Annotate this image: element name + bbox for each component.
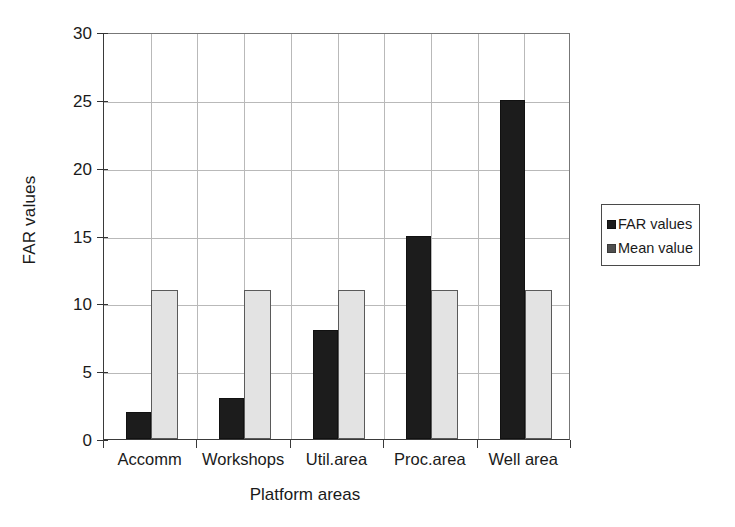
x-axis-tick-mark xyxy=(103,440,104,448)
bar-far-values-proc-area xyxy=(406,236,431,440)
y-axis-title: FAR values xyxy=(0,0,60,440)
x-gridline xyxy=(291,34,292,439)
x-gridline xyxy=(384,34,385,439)
x-axis-category-label: Proc.area xyxy=(383,450,476,469)
y-axis-tick-label: 25 xyxy=(54,92,92,109)
x-axis-tick-mark xyxy=(290,440,291,448)
bar-mean-value-well-area xyxy=(525,290,552,439)
bar-far-values-well-area xyxy=(500,100,525,439)
x-axis-tick-mark xyxy=(196,440,197,448)
legend-entry: Mean value xyxy=(607,236,699,260)
bar-mean-value-proc-area xyxy=(431,290,458,439)
y-axis-tick-mark xyxy=(97,101,108,102)
x-axis-category-label: Workshops xyxy=(196,450,289,469)
bar-mean-value-util-area xyxy=(338,290,365,439)
y-axis-title-text: FAR values xyxy=(20,176,40,265)
x-axis-category-label: Well area xyxy=(477,450,570,469)
bar-far-values-util-area xyxy=(313,330,338,439)
x-axis-title: Platform areas xyxy=(103,485,507,505)
legend-swatch-icon xyxy=(607,220,616,229)
x-axis-tick-mark xyxy=(477,440,478,448)
bar-far-values-accomm xyxy=(126,412,151,439)
legend-label: FAR values xyxy=(618,217,692,232)
bar-mean-value-accomm xyxy=(151,290,178,439)
x-axis-category-label: Accomm xyxy=(103,450,196,469)
x-axis-category-label: Util.area xyxy=(290,450,383,469)
bar-far-values-workshops xyxy=(219,398,244,439)
y-axis-tick-mark xyxy=(97,237,108,238)
x-axis-tick-mark xyxy=(570,440,571,448)
y-axis-tick-label: 20 xyxy=(54,160,92,177)
x-gridline xyxy=(478,34,479,439)
y-axis-tick-label: 0 xyxy=(54,432,92,449)
bar-chart-figure: FAR values 051015202530 Platform areas F… xyxy=(0,0,735,527)
chart-legend: FAR valuesMean value xyxy=(601,204,700,266)
x-axis-tick-mark xyxy=(383,440,384,448)
bar-mean-value-workshops xyxy=(244,290,271,439)
y-axis-tick-mark xyxy=(97,33,108,34)
y-axis-tick-label: 15 xyxy=(54,228,92,245)
y-axis-tick-label: 30 xyxy=(54,25,92,42)
y-axis-tick-label: 10 xyxy=(54,296,92,313)
y-axis-tick-mark xyxy=(97,304,108,305)
x-gridline xyxy=(197,34,198,439)
legend-entry: FAR values xyxy=(607,212,699,236)
y-axis-tick-mark xyxy=(97,169,108,170)
legend-label: Mean value xyxy=(618,241,693,256)
y-axis-tick-mark xyxy=(97,372,108,373)
plot-area xyxy=(103,33,570,440)
y-axis-tick-label: 5 xyxy=(54,364,92,381)
legend-swatch-icon xyxy=(607,244,616,253)
y-axis-tick-labels: 051015202530 xyxy=(52,0,92,527)
